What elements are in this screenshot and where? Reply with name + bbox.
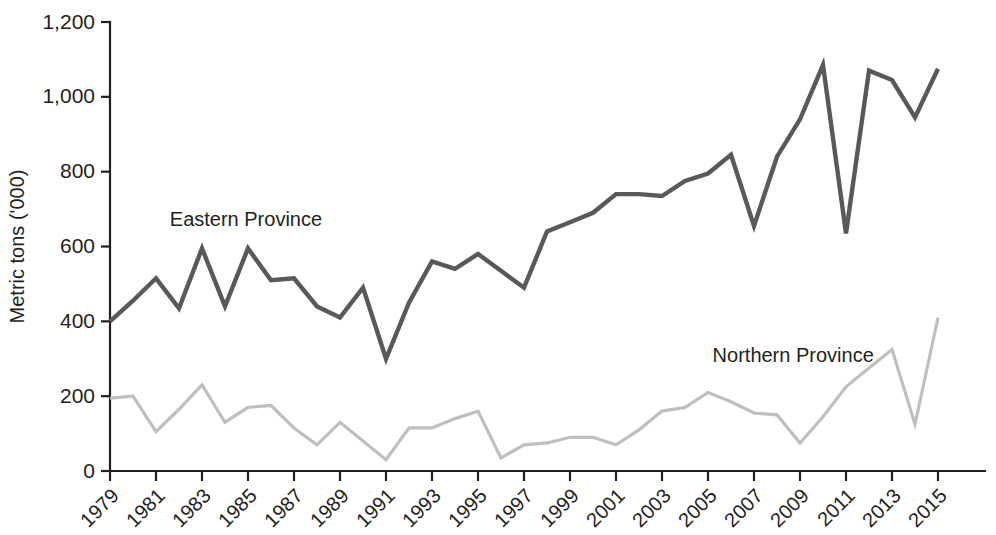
series-line-northern-province bbox=[110, 318, 938, 460]
x-tick-label: 1989 bbox=[306, 484, 353, 531]
x-tick-label: 1995 bbox=[444, 484, 491, 531]
y-tick-label: 800 bbox=[60, 159, 95, 182]
x-tick-label: 2009 bbox=[766, 484, 813, 531]
x-tick-label: 1987 bbox=[260, 484, 307, 531]
y-axis-ticks bbox=[101, 22, 110, 471]
data-series-group bbox=[110, 65, 938, 460]
x-tick-label: 2015 bbox=[904, 484, 951, 531]
x-tick-label: 1991 bbox=[352, 484, 399, 531]
x-axis-ticks bbox=[110, 471, 938, 481]
y-tick-label: 200 bbox=[60, 384, 95, 407]
x-tick-label: 2005 bbox=[674, 484, 721, 531]
x-tick-label: 1997 bbox=[490, 484, 537, 531]
x-tick-label: 2003 bbox=[628, 484, 675, 531]
x-tick-label: 1993 bbox=[398, 484, 445, 531]
x-tick-label: 2013 bbox=[858, 484, 905, 531]
series-label-eastern-province: Eastern Province bbox=[170, 208, 322, 230]
x-tick-label: 1985 bbox=[214, 484, 261, 531]
x-tick-label: 1999 bbox=[536, 484, 583, 531]
y-axis-tick-labels: 02004006008001,0001,200 bbox=[42, 10, 95, 482]
y-tick-label: 1,200 bbox=[42, 10, 95, 33]
series-label-northern-province: Northern Province bbox=[713, 344, 874, 366]
y-tick-label: 400 bbox=[60, 309, 95, 332]
x-tick-label: 2001 bbox=[582, 484, 629, 531]
chart-canvas: 02004006008001,0001,200 1979198119831985… bbox=[0, 0, 996, 535]
y-axis-title: Metric tons ('000) bbox=[6, 170, 28, 324]
line-chart: 02004006008001,0001,200 1979198119831985… bbox=[0, 0, 996, 535]
x-tick-label: 2011 bbox=[813, 484, 859, 530]
x-tick-label: 1983 bbox=[168, 484, 215, 531]
y-tick-label: 600 bbox=[60, 234, 95, 257]
x-tick-label: 2007 bbox=[720, 484, 767, 531]
x-tick-label: 1979 bbox=[76, 484, 123, 531]
y-tick-label: 1,000 bbox=[42, 84, 95, 107]
x-axis-tick-labels: 1979198119831985198719891991199319951997… bbox=[76, 484, 951, 531]
x-tick-label: 1981 bbox=[122, 484, 169, 531]
y-tick-label: 0 bbox=[83, 459, 95, 482]
